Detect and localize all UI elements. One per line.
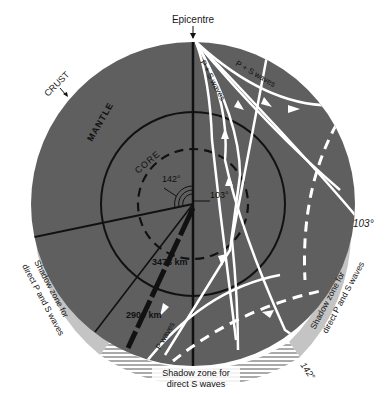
svg-text:Shadow zone for: Shadow zone for — [162, 368, 230, 378]
angle-142-edge: 142° — [298, 360, 317, 381]
angle-103-edge: 103° — [353, 218, 374, 229]
svg-text:direct S waves: direct S waves — [167, 379, 226, 389]
angle-142-center: 142° — [162, 174, 181, 184]
epicentre-label: Epicentre — [172, 14, 215, 25]
core-radius-label: 3473 km — [152, 257, 188, 267]
mantle-depth-label: 2900 km — [126, 310, 162, 320]
earth-seismic-diagram: Epicentre CRUST MANTLE CORE 142° 103° 34… — [0, 0, 389, 394]
shadow-zone-label-bottom: Shadow zone for direct S waves — [152, 366, 240, 392]
angle-103-center: 103° — [210, 190, 229, 200]
